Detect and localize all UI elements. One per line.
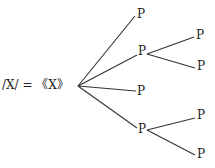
edge-root-n2 xyxy=(78,55,137,86)
edge-root-n3 xyxy=(78,86,136,91)
node-n4b: P xyxy=(197,148,205,160)
node-n4a: P xyxy=(197,109,205,121)
node-n2: P xyxy=(138,45,146,57)
root-label: /X/ = 《X》 xyxy=(2,79,69,91)
edge-n2-n2a xyxy=(147,37,194,54)
edge-n2-n2b xyxy=(147,54,195,68)
node-n1: P xyxy=(137,8,145,20)
edge-n4-n4a xyxy=(147,118,195,130)
node-n2b: P xyxy=(197,60,205,72)
edge-root-n1 xyxy=(78,16,135,86)
node-n3: P xyxy=(137,85,145,97)
node-n2a: P xyxy=(196,29,204,41)
edge-root-n4 xyxy=(78,86,137,128)
edge-n4-n4b xyxy=(147,130,195,155)
node-n4: P xyxy=(138,123,146,135)
